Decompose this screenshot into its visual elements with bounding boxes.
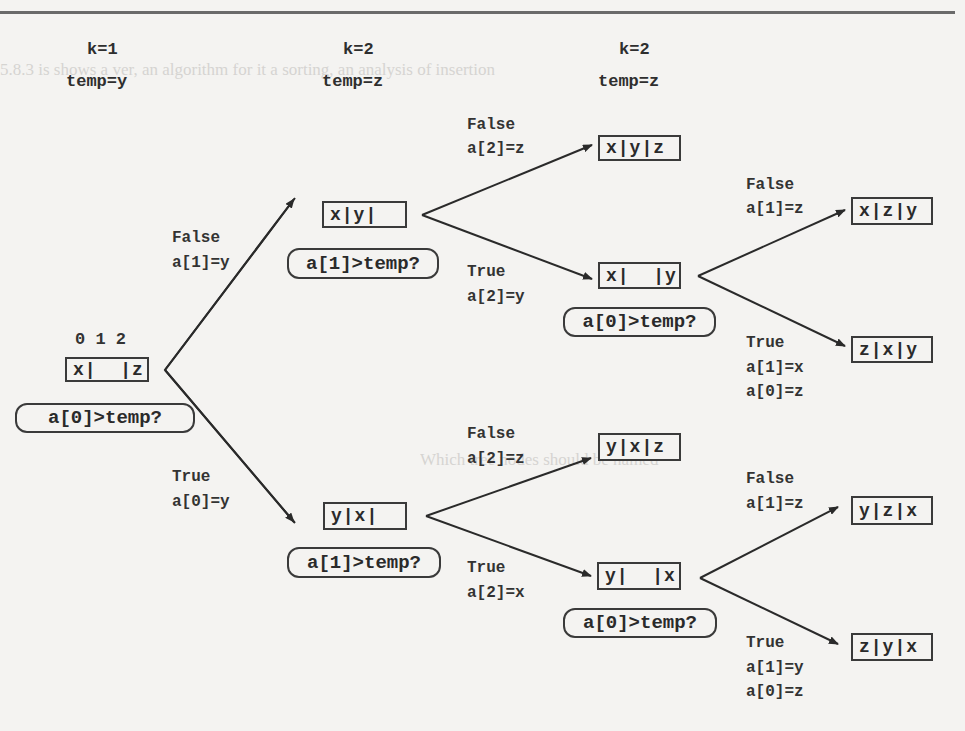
assignment-label: a[2]=y [467, 287, 525, 308]
assignment-label: a[2]=x [467, 583, 525, 604]
array-box-leaf: z|y|x [851, 633, 933, 661]
assignment-label: a[0]=z [746, 682, 804, 703]
array-box-leaf: y|z|x [851, 496, 933, 525]
branch-label: True [172, 467, 210, 488]
branch-label: False [467, 115, 515, 136]
branch-label: False [746, 175, 794, 196]
assignment-label: a[1]=z [746, 494, 804, 515]
decision-pill: a[1]>temp? [287, 547, 441, 578]
assignment-label: a[1]=y [746, 658, 804, 679]
assignment-label: a[2]=z [467, 449, 525, 470]
array-box: x| |y [598, 262, 681, 289]
array-index-labels: 0 1 2 [75, 330, 126, 349]
root-array-box: x| |z [65, 357, 149, 382]
root-decision-pill: a[0]>temp? [15, 403, 195, 433]
decision-pill: a[0]>temp? [563, 307, 716, 337]
array-box: y| |x [597, 562, 681, 590]
branch-label: False [746, 469, 794, 490]
branch-label: True [746, 633, 784, 654]
branch-label: True [467, 558, 505, 579]
array-box: y|x| [323, 502, 407, 530]
array-box: y|x|z [598, 433, 681, 461]
assignment-label: a[0]=z [746, 382, 804, 403]
decision-pill: a[1]>temp? [287, 248, 439, 279]
decision-pill: a[0]>temp? [563, 608, 717, 638]
array-box-leaf: x|z|y [851, 197, 933, 225]
branch-label: False [172, 228, 220, 249]
array-box-leaf: z|x|y [851, 336, 933, 363]
branch-label: True [467, 262, 505, 283]
branch-label: True [746, 333, 784, 354]
assignment-label: a[1]=x [746, 358, 804, 379]
assignment-label: a[0]=y [172, 492, 230, 513]
assignment-label: a[1]=y [172, 253, 230, 274]
array-box: x|y| [322, 201, 407, 228]
assignment-label: a[2]=z [467, 139, 525, 160]
assignment-label: a[1]=z [746, 199, 804, 220]
branch-label: False [467, 424, 515, 445]
array-box: x|y|z [598, 135, 681, 161]
